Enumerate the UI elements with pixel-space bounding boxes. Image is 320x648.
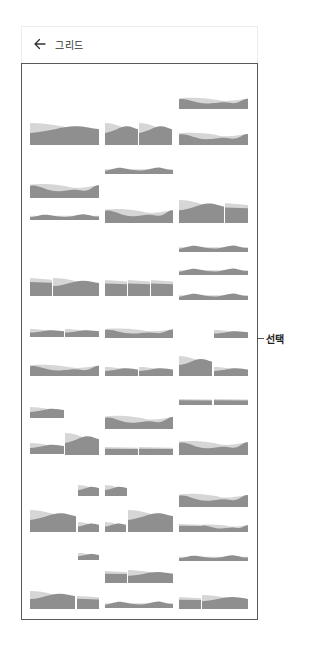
grid-thumbnail[interactable]: [53, 278, 99, 296]
grid-thumbnail[interactable]: [128, 570, 173, 583]
thumbnail-image: [30, 591, 75, 609]
grid-thumbnail[interactable]: [179, 244, 248, 252]
grid-thumbnail[interactable]: [78, 485, 99, 496]
grid-thumbnail[interactable]: [105, 522, 126, 532]
thumbnail-image: [179, 554, 248, 561]
grid-thumbnail[interactable]: [179, 292, 248, 300]
thumbnail-image: [30, 278, 52, 296]
grid-thumbnail[interactable]: [30, 183, 99, 198]
grid-thumbnail[interactable]: [179, 524, 202, 532]
grid-thumbnail[interactable]: [30, 364, 99, 376]
thumbnail-image: [105, 123, 138, 145]
thumbnail-image: [30, 364, 99, 376]
thumbnail-image: [214, 330, 248, 338]
grid-thumbnail[interactable]: [30, 123, 99, 145]
thumbnail-image: [128, 280, 150, 296]
thumbnail-image: [30, 510, 76, 532]
thumbnail-image: [105, 166, 173, 174]
thumbnail-image: [78, 553, 99, 560]
grid-thumbnail[interactable]: [105, 447, 138, 455]
grid-thumbnail[interactable]: [105, 571, 127, 583]
page-title: 그리드: [55, 37, 84, 52]
grid-thumbnail[interactable]: [30, 510, 76, 532]
app-header: 그리드: [21, 26, 258, 63]
thumbnail-image: [179, 200, 224, 223]
thumbnail-image: [214, 399, 248, 405]
grid-thumbnail[interactable]: [105, 485, 127, 496]
grid-thumbnail[interactable]: [128, 510, 173, 532]
grid-thumbnail[interactable]: [179, 440, 248, 455]
grid-thumbnail[interactable]: [65, 329, 99, 337]
thumbnail-image: [105, 485, 127, 496]
grid-thumbnail[interactable]: [179, 200, 224, 223]
grid-thumbnail[interactable]: [179, 554, 248, 561]
grid-thumbnail[interactable]: [179, 267, 248, 275]
grid-thumbnail[interactable]: [139, 447, 173, 455]
grid-thumbnail[interactable]: [30, 329, 64, 337]
thumbnail-image: [53, 278, 99, 296]
grid-thumbnail[interactable]: [105, 280, 127, 296]
grid-thumbnail[interactable]: [128, 280, 150, 296]
grid-thumbnail[interactable]: [179, 597, 201, 609]
grid-thumbnail[interactable]: [179, 132, 248, 145]
grid-thumbnail[interactable]: [179, 493, 248, 507]
grid-selection-frame[interactable]: [21, 63, 258, 620]
arrow-left-icon: [32, 36, 48, 52]
grid-thumbnail[interactable]: [179, 356, 212, 376]
grid-thumbnail[interactable]: [30, 407, 64, 418]
thumbnail-image: [105, 280, 127, 296]
thumbnail-image: [179, 524, 202, 532]
thumbnail-image: [65, 329, 99, 337]
thumbnail-image: [179, 440, 248, 455]
thumbnail-image: [105, 328, 173, 338]
thumbnail-image: [179, 356, 212, 376]
grid-thumbnail[interactable]: [78, 522, 99, 532]
thumbnail-image: [128, 570, 173, 583]
grid-thumbnail[interactable]: [214, 367, 248, 376]
thumbnail-image: [105, 367, 138, 376]
back-button[interactable]: [32, 36, 48, 52]
grid-thumbnail[interactable]: [77, 596, 99, 609]
grid-thumbnail[interactable]: [139, 367, 173, 376]
grid-thumbnail[interactable]: [30, 591, 75, 609]
grid-thumbnail[interactable]: [214, 399, 248, 405]
grid-thumbnail[interactable]: [30, 443, 64, 454]
grid-thumbnail[interactable]: [105, 600, 173, 608]
annotation-pointer: [258, 338, 264, 339]
grid-thumbnail[interactable]: [179, 399, 212, 405]
grid-thumbnail[interactable]: [225, 203, 248, 223]
grid-thumbnail[interactable]: [151, 280, 173, 296]
thumbnail-image: [105, 447, 138, 455]
grid-thumbnail[interactable]: [202, 595, 248, 609]
grid-thumbnail[interactable]: [105, 208, 173, 223]
thumbnail-image: [202, 524, 248, 532]
thumbnail-image: [30, 123, 99, 145]
grid-thumbnail[interactable]: [105, 328, 173, 338]
thumbnail-image: [105, 600, 173, 608]
thumbnail-image: [179, 97, 248, 109]
grid-thumbnail[interactable]: [65, 433, 99, 455]
grid-thumbnail[interactable]: [202, 524, 248, 532]
thumbnail-image: [151, 280, 173, 296]
grid-thumbnail[interactable]: [30, 213, 99, 220]
thumbnail-image: [105, 415, 173, 429]
annotation-label: 선택: [266, 331, 284, 346]
thumbnail-image: [179, 399, 212, 405]
thumbnail-image: [105, 522, 126, 532]
grid-thumbnail[interactable]: [105, 367, 138, 376]
grid-thumbnail[interactable]: [214, 330, 248, 338]
grid-thumbnail[interactable]: [139, 123, 172, 145]
thumbnail-image: [202, 595, 248, 609]
grid-thumbnail[interactable]: [30, 278, 52, 296]
thumbnail-image: [225, 203, 248, 223]
grid-thumbnail[interactable]: [105, 166, 173, 174]
thumbnail-image: [30, 407, 64, 418]
thumbnail-image: [30, 213, 99, 220]
grid-thumbnail[interactable]: [78, 553, 99, 560]
grid-thumbnail[interactable]: [105, 415, 173, 429]
thumbnail-image: [139, 367, 173, 376]
thumbnail-image: [78, 522, 99, 532]
grid-thumbnail[interactable]: [179, 97, 248, 109]
grid-thumbnail[interactable]: [105, 123, 138, 145]
thumbnail-image: [105, 208, 173, 223]
